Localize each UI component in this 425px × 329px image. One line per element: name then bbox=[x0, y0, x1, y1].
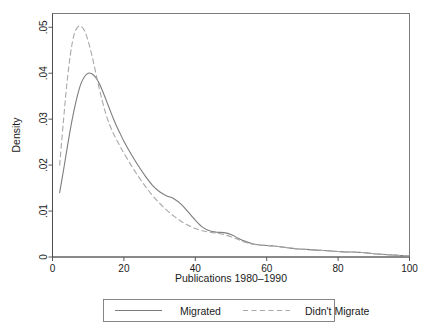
y-axis-title: Density bbox=[10, 117, 22, 153]
figure-root: 0.01.02.03.04.05 020406080100 Density Pu… bbox=[0, 0, 425, 329]
y-tick-label: .04 bbox=[38, 66, 49, 80]
x-tick-label: 80 bbox=[333, 263, 345, 274]
density-plot-chart: 0.01.02.03.04.05 020406080100 Density Pu… bbox=[0, 0, 425, 329]
x-tick-label: 100 bbox=[401, 263, 418, 274]
x-axis-title: Publications 1980–1990 bbox=[175, 272, 287, 284]
y-tick-label: .05 bbox=[38, 20, 49, 34]
legend-label-migrated: Migrated bbox=[180, 305, 221, 317]
legend-label-didn-t-migrate: Didn't Migrate bbox=[305, 305, 370, 317]
legend: MigratedDidn't Migrate bbox=[104, 300, 370, 322]
x-tick-label: 0 bbox=[50, 263, 56, 274]
x-tick-label: 20 bbox=[118, 263, 130, 274]
y-tick-label: 0 bbox=[38, 254, 49, 260]
y-tick-label: .02 bbox=[38, 158, 49, 172]
y-tick-label: .01 bbox=[38, 204, 49, 218]
y-tick-label: .03 bbox=[38, 112, 49, 126]
